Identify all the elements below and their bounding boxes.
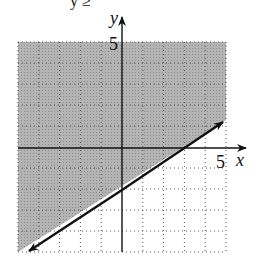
y-axis-label: y — [108, 8, 118, 28]
coordinate-plane: y ≥ y 5 5 x — [0, 0, 261, 267]
y-tick-label-5: 5 — [109, 34, 118, 54]
x-tick-label-5: 5 — [216, 152, 225, 172]
header-fragment: y ≥ — [70, 0, 91, 10]
x-axis-label: x — [235, 150, 244, 170]
